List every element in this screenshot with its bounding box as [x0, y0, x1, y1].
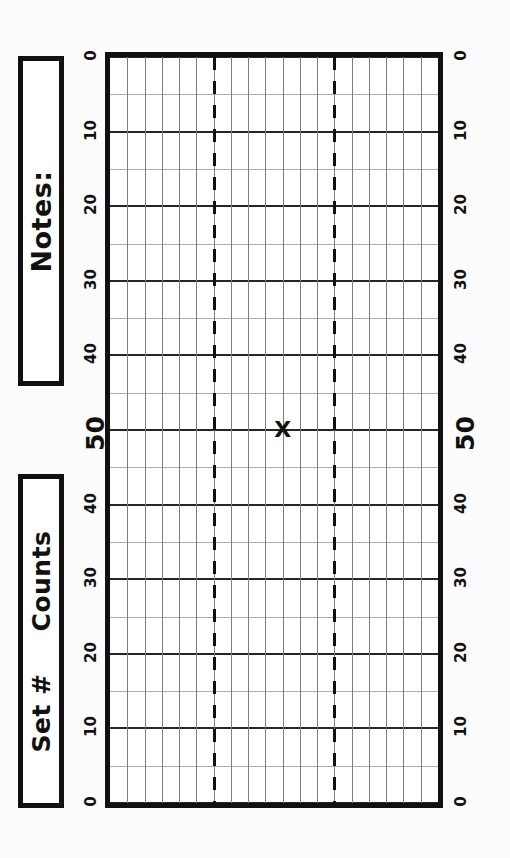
gridline-vertical — [265, 57, 266, 803]
gridline-vertical — [145, 57, 146, 803]
gridline-vertical — [317, 57, 318, 803]
gridline-major — [110, 280, 438, 282]
tick-label-right-4: 40 — [448, 346, 474, 361]
tick-label-right-1: 10 — [448, 123, 474, 138]
tick-label-left-7: 30 — [78, 570, 104, 585]
tick-label-left-6: 40 — [78, 496, 104, 511]
gridline-vertical — [127, 57, 128, 803]
tick-label-right-3: 30 — [448, 272, 474, 287]
y-axis-left-ticks: 01020304050403020100 — [78, 52, 104, 808]
gridline-major — [110, 131, 438, 133]
tick-label-right-8: 20 — [448, 645, 474, 660]
notes-box[interactable]: Notes: — [18, 56, 64, 386]
gridline-vertical — [162, 57, 163, 803]
set-number-label: Set # — [27, 673, 56, 752]
notes-label: Notes: — [26, 170, 57, 272]
gridline-major — [110, 354, 438, 356]
form-sheet: Notes: Set # Counts 01020304050403020100… — [0, 0, 510, 858]
gridline-minor — [110, 467, 438, 468]
gridline-major — [110, 578, 438, 580]
counts-header-box[interactable]: Set # Counts — [18, 474, 64, 808]
gridline-minor — [110, 244, 438, 245]
gridline-vertical — [179, 57, 180, 803]
tick-label-right-0: 0 — [448, 48, 474, 63]
gridline-major — [110, 57, 438, 58]
counts-header-inner: Set # Counts — [27, 530, 56, 752]
tick-label-right-10: 0 — [448, 794, 474, 809]
gridline-major — [110, 802, 438, 803]
gridline-minor — [110, 318, 438, 319]
counts-label: Counts — [27, 530, 56, 631]
gridline-major — [110, 205, 438, 207]
gridline-vertical — [386, 57, 387, 803]
tick-label-left-5: 50 — [78, 421, 104, 446]
tick-label-right-6: 40 — [448, 496, 474, 511]
gridline-minor — [110, 617, 438, 618]
counts-plot[interactable]: X — [105, 52, 443, 808]
gridline-vertical — [403, 57, 404, 803]
gridline-minor — [110, 94, 438, 95]
gridline-vertical — [196, 57, 197, 803]
gridline-minor — [110, 542, 438, 543]
gridline-vertical — [352, 57, 353, 803]
gridline-major — [110, 727, 438, 729]
gridline-vertical — [248, 57, 249, 803]
tick-label-right-5: 50 — [448, 421, 474, 446]
gridline-vertical — [421, 57, 422, 803]
tick-label-left-2: 20 — [78, 197, 104, 212]
data-point-marker[interactable]: X — [274, 419, 291, 441]
divider-dashed-line — [333, 57, 336, 803]
tick-label-left-3: 30 — [78, 272, 104, 287]
gridline-major — [110, 653, 438, 655]
tick-label-left-4: 40 — [78, 346, 104, 361]
tick-label-left-0: 0 — [78, 48, 104, 63]
gridline-minor — [110, 169, 438, 170]
gridline-major — [110, 504, 438, 506]
tick-label-right-7: 30 — [448, 570, 474, 585]
gridline-minor — [110, 393, 438, 394]
divider-dashed-line — [213, 57, 216, 803]
tick-label-left-10: 0 — [78, 794, 104, 809]
tick-label-right-9: 10 — [448, 719, 474, 734]
tick-label-right-2: 20 — [448, 197, 474, 212]
grid-layer: X — [110, 57, 438, 803]
gridline-vertical — [369, 57, 370, 803]
gridline-vertical — [231, 57, 232, 803]
y-axis-right-ticks: 01020304050403020100 — [448, 52, 474, 808]
gridline-minor — [110, 691, 438, 692]
gridline-vertical — [300, 57, 301, 803]
gridline-minor — [110, 766, 438, 767]
tick-label-left-8: 20 — [78, 645, 104, 660]
tick-label-left-1: 10 — [78, 123, 104, 138]
tick-label-left-9: 10 — [78, 719, 104, 734]
